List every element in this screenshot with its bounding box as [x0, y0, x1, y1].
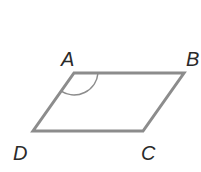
vertex-label-b: B	[186, 48, 199, 70]
diagram-canvas: A B C D	[0, 0, 201, 172]
vertex-label-a: A	[60, 48, 74, 70]
vertex-label-c: C	[141, 142, 156, 164]
parallelogram-abcd	[33, 73, 184, 131]
parallelogram-diagram: A B C D	[0, 0, 201, 172]
vertex-label-d: D	[13, 142, 27, 164]
